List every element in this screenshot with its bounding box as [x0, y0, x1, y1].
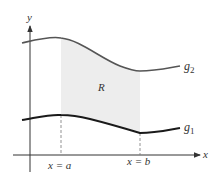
g1-label: g1: [184, 120, 195, 136]
y-axis-label: y: [26, 11, 32, 23]
g2-label: g2: [184, 59, 195, 75]
x-axis-label: x: [202, 148, 208, 160]
region-diagram: y x R g2 g1 x = a x = b: [0, 0, 215, 180]
region-label: R: [97, 81, 105, 93]
x-equals-a-label: x = a: [47, 159, 72, 171]
x-equals-b-label: x = b: [126, 155, 151, 167]
